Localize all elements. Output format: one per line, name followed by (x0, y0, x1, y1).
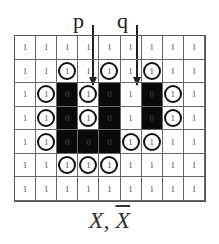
grid-cell: 0 (99, 107, 120, 131)
cell-value: 1 (128, 137, 133, 147)
grid-cell: 0 (78, 130, 99, 154)
cell-value: 1 (23, 66, 28, 76)
grid-cell: 0 (142, 107, 163, 131)
cell-value: 1 (128, 113, 133, 123)
grid-cell: 1 (57, 154, 78, 178)
grid-cell: 1 (163, 60, 184, 84)
cell-value: 0 (107, 89, 112, 99)
grid-cell: 1 (57, 36, 78, 60)
grid-cell: 1 (15, 83, 36, 107)
cell-value: 1 (44, 113, 49, 123)
cell-value: 1 (23, 42, 28, 52)
cell-value: 1 (171, 137, 176, 147)
cell-value: 1 (192, 89, 197, 99)
grid-cell: 0 (99, 83, 120, 107)
cell-value: 1 (65, 160, 70, 170)
grid-cell: 1 (121, 107, 142, 131)
cell-value: 1 (149, 66, 154, 76)
cell-value: 1 (171, 66, 176, 76)
cell-value: 1 (44, 184, 49, 194)
grid-cell: 1 (36, 107, 57, 131)
cell-value: 1 (86, 42, 91, 52)
grid-cell: 1 (15, 36, 36, 60)
cell-value: 1 (65, 66, 70, 76)
cell-value: 1 (107, 66, 112, 76)
cell-value: 1 (23, 89, 28, 99)
grid-cell: 1 (184, 36, 205, 60)
grid-cell: 1 (78, 177, 99, 201)
grid-cell: 1 (184, 60, 205, 84)
cell-value: 1 (171, 160, 176, 170)
caption-x-complement: X (116, 207, 131, 233)
cell-value: 1 (23, 160, 28, 170)
grid-cell: 1 (99, 154, 120, 178)
grid-cell: 1 (163, 130, 184, 154)
grid-cell: 1 (15, 154, 36, 178)
cell-value: 1 (44, 137, 49, 147)
caption: X, X (0, 207, 219, 234)
cell-value: 1 (23, 184, 28, 194)
cell-value: 1 (86, 66, 91, 76)
grid-cell: 1 (15, 107, 36, 131)
grid-cell: 1 (142, 154, 163, 178)
cell-value: 1 (149, 42, 154, 52)
cell-value: 0 (149, 89, 154, 99)
cell-value: 0 (65, 113, 70, 123)
cell-value: 1 (171, 42, 176, 52)
cell-value: 0 (65, 89, 70, 99)
grid-cell: 1 (184, 130, 205, 154)
caption-x: X (89, 207, 104, 233)
grid-cell: 1 (57, 60, 78, 84)
cell-value: 1 (44, 42, 49, 52)
grid-cell: 1 (184, 154, 205, 178)
grid-cell: 1 (163, 177, 184, 201)
grid-cell: 1 (99, 36, 120, 60)
grid-cell: 1 (36, 177, 57, 201)
cell-value: 0 (149, 113, 154, 123)
cell-value: 1 (149, 184, 154, 194)
cell-value: 1 (23, 137, 28, 147)
cell-value: 1 (192, 66, 197, 76)
cell-value: 1 (128, 160, 133, 170)
grid-cell: 1 (163, 83, 184, 107)
cell-value: 1 (107, 184, 112, 194)
grid-cell: 1 (36, 83, 57, 107)
grid-cell: 1 (163, 154, 184, 178)
grid-cell: 1 (15, 177, 36, 201)
cell-value: 1 (44, 89, 49, 99)
cell-value: 1 (107, 160, 112, 170)
label-q: q (117, 10, 128, 32)
cell-value: 0 (107, 137, 112, 147)
cell-value: 1 (86, 89, 91, 99)
cell-value: 1 (44, 160, 49, 170)
grid-cell: 1 (78, 36, 99, 60)
cell-value: 1 (171, 89, 176, 99)
cell-value: 1 (128, 66, 133, 76)
cell-value: 1 (192, 184, 197, 194)
grid-cell: 1 (142, 36, 163, 60)
cell-value: 1 (86, 184, 91, 194)
cell-value: 0 (86, 137, 91, 147)
grid-cell: 1 (121, 60, 142, 84)
cell-value: 1 (171, 113, 176, 123)
grid-cell: 0 (99, 130, 120, 154)
cell-value: 1 (86, 160, 91, 170)
cell-value: 1 (149, 137, 154, 147)
caption-sep: , (104, 207, 116, 233)
grid-cell: 0 (57, 130, 78, 154)
grid-cell: 1 (184, 83, 205, 107)
grid-cell: 1 (163, 36, 184, 60)
grid-cell: 1 (163, 107, 184, 131)
grid-cell: 1 (121, 83, 142, 107)
cell-value: 1 (149, 160, 154, 170)
cell-value: 1 (107, 42, 112, 52)
grid-cell: 1 (15, 60, 36, 84)
grid-cell: 1 (142, 177, 163, 201)
cell-value: 1 (192, 137, 197, 147)
grid-cell: 1 (15, 130, 36, 154)
cell-value: 1 (128, 89, 133, 99)
grid-cell: 1 (78, 154, 99, 178)
label-p: p (73, 10, 84, 32)
cell-value: 1 (171, 184, 176, 194)
grid-cell: 1 (78, 83, 99, 107)
